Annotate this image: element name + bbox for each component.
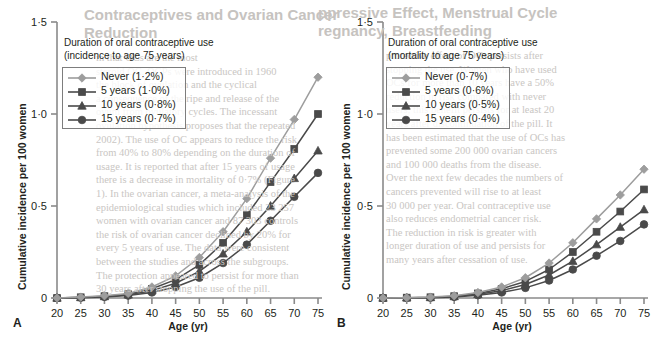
x-tick-label: 30 — [424, 307, 436, 319]
x-tick-label: 50 — [519, 307, 531, 319]
legend-label-10-years: 10 years (0·5%) — [425, 98, 500, 110]
x-tick-label: 65 — [264, 307, 276, 319]
legend-title-a-line1: Duration of oral contraceptive use — [64, 37, 214, 50]
legend-label-15-years: 15 years (0·4%) — [425, 112, 500, 124]
panel-letter-a: A — [13, 316, 22, 330]
x-tick-label: 40 — [472, 307, 484, 319]
y-tick-label: 1·5 — [357, 16, 373, 28]
legend-marker-10-years — [67, 99, 97, 113]
chart-panel-b: ppressive Effect, Menstrual Cycle regnan… — [326, 0, 651, 337]
series-5-years — [54, 111, 322, 302]
x-tick-label: 75 — [638, 307, 650, 319]
x-tick-label: 55 — [543, 307, 555, 319]
y-tick-label: 1·0 — [31, 108, 47, 120]
y-tick-label: 1·5 — [31, 16, 47, 28]
legend-label-15-years: 15 years (0·7%) — [101, 112, 176, 124]
legend-label-10-years: 10 years (0·8%) — [101, 98, 176, 110]
series-15-years — [379, 221, 648, 302]
legend-label-never: Never (1·2%) — [101, 70, 163, 82]
legend-title-b-line1: Duration of oral contraceptive use — [388, 37, 538, 50]
x-tick-label: 40 — [146, 307, 158, 319]
legend-marker-5-years — [67, 85, 97, 99]
x-tick-label: 35 — [448, 307, 460, 319]
series-10-years — [379, 205, 648, 301]
y-tick-label: 0 — [367, 292, 373, 304]
x-axis-label-a: Age (yr) — [133, 320, 243, 332]
x-tick-label: 20 — [377, 307, 389, 319]
series-15-years — [53, 169, 322, 302]
x-tick-label: 45 — [170, 307, 182, 319]
legend-marker-5-years — [391, 85, 421, 99]
x-tick-label: 70 — [288, 307, 300, 319]
x-tick-label: 60 — [241, 307, 253, 319]
legend-marker-never — [67, 71, 97, 85]
y-tick-label: 0 — [41, 292, 47, 304]
y-tick-label: 1·0 — [357, 108, 373, 120]
series-never — [379, 165, 648, 302]
y-axis-label-a: Cumulative incidence per 100 women — [16, 103, 28, 290]
x-tick-label: 30 — [98, 307, 110, 319]
legend-label-5-years: 5 years (1·0%) — [101, 84, 170, 96]
y-tick-label: 0·5 — [31, 200, 47, 212]
legend-marker-15-years — [67, 113, 97, 127]
x-tick-label: 65 — [590, 307, 602, 319]
x-axis-label-b: Age (yr) — [457, 320, 567, 332]
y-tick-label: 0·5 — [357, 200, 373, 212]
x-tick-label: 45 — [496, 307, 508, 319]
x-tick-label: 25 — [401, 307, 413, 319]
x-tick-label: 60 — [567, 307, 579, 319]
legend-marker-never — [391, 71, 421, 85]
legend-label-5-years: 5 years (0·6%) — [425, 84, 494, 96]
legend-marker-10-years — [391, 99, 421, 113]
series-10-years — [53, 146, 322, 301]
legend-title-b-line2: (mortality to age 75 years) — [388, 50, 504, 63]
x-tick-label: 35 — [122, 307, 134, 319]
series-5-years — [380, 186, 648, 301]
x-tick-label: 20 — [51, 307, 63, 319]
figure-container: Contraceptives and Ovarian Cancer Reduct… — [0, 0, 651, 337]
x-tick-label: 70 — [614, 307, 626, 319]
x-tick-label: 25 — [75, 307, 87, 319]
legend-marker-15-years — [391, 113, 421, 127]
x-tick-label: 75 — [312, 307, 324, 319]
y-axis-label-b: Cumulative incidence per 100 women — [340, 103, 352, 290]
x-tick-label: 55 — [217, 307, 229, 319]
panel-letter-b: B — [337, 316, 346, 330]
chart-panel-a: Contraceptives and Ovarian Cancer Reduct… — [0, 0, 325, 337]
legend-label-never: Never (0·7%) — [425, 70, 487, 82]
x-tick-label: 50 — [193, 307, 205, 319]
legend-title-a-line2: (incidence to age 75 years) — [64, 50, 185, 63]
